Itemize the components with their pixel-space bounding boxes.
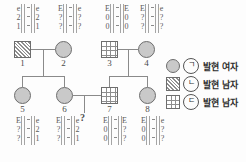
- genotype-row: Ee: [133, 116, 173, 125]
- genotype-row: Ee: [48, 116, 88, 125]
- legend-key-letter: ㄴ: [183, 76, 199, 92]
- genotype-row: ??: [50, 22, 90, 31]
- allele: ?: [13, 125, 24, 134]
- individual-4-symbol[interactable]: [138, 41, 155, 58]
- individual-5-symbol[interactable]: [14, 87, 31, 104]
- allele: 2: [13, 13, 24, 22]
- legend-label: 발현 남자: [203, 78, 238, 91]
- square-grid-hatch-icon: [166, 95, 180, 109]
- genotype-row: 0?: [95, 134, 135, 143]
- allele: e: [32, 4, 43, 13]
- allele: 0: [100, 134, 111, 143]
- genotype-row: Ee: [50, 4, 90, 13]
- individual-4-label: 4: [138, 58, 155, 68]
- individual-1-symbol[interactable]: [14, 41, 31, 58]
- allele: 0: [100, 125, 111, 134]
- individual-2-symbol[interactable]: [55, 41, 72, 58]
- sibship-line-7-8: [109, 76, 147, 77]
- allele: e: [156, 4, 167, 13]
- individual-6-symbol[interactable]: [56, 87, 73, 104]
- legend-label: 발현 여자: [203, 60, 238, 73]
- allele: E: [13, 116, 24, 125]
- allele: E: [100, 116, 111, 125]
- legend-key-letter: ㄷ: [183, 94, 199, 110]
- genotype-row: 0?: [133, 125, 173, 134]
- genotype-row: 0?: [133, 134, 173, 143]
- genotype-block-3: EE 00 00: [97, 4, 137, 31]
- sib-drop-6: [64, 76, 65, 87]
- allele: ?: [74, 22, 85, 31]
- individual-8-symbol[interactable]: [139, 87, 156, 104]
- allele: e: [72, 116, 83, 125]
- genotype-block-1: ee 22 11: [8, 4, 48, 31]
- genotype-row: 0?: [95, 125, 135, 134]
- genotype-row: ??: [132, 22, 172, 31]
- allele: 0: [121, 22, 132, 31]
- allele: ?: [156, 22, 167, 31]
- sib-drop-7: [109, 76, 110, 87]
- allele: E: [55, 4, 66, 13]
- individual-3-label: 3: [101, 58, 118, 68]
- allele: 1: [32, 22, 43, 31]
- legend-item-affected-male-grid: ㄷ 발현 남자: [166, 94, 244, 110]
- individual-3-symbol[interactable]: [101, 41, 118, 58]
- genotype-row: 22: [8, 13, 48, 22]
- individual-2-label: 2: [55, 58, 72, 68]
- allele: 1: [13, 22, 24, 31]
- allele: ?: [137, 22, 148, 31]
- mating-line-6-7: [73, 95, 101, 96]
- genotype-row: ?1: [8, 134, 48, 143]
- allele: 0: [102, 13, 113, 22]
- sib-drop-8: [147, 76, 148, 87]
- allele: E: [138, 116, 149, 125]
- legend-item-affected-female: ㄱ 발현 여자: [166, 58, 244, 74]
- legend-label: 발현 남자: [203, 96, 238, 109]
- genotype-row: 11: [8, 22, 48, 31]
- legend-item-affected-male-diagonal: ㄴ 발현 남자: [166, 76, 244, 92]
- allele: ?: [55, 22, 66, 31]
- descent-line-1-2: [43, 49, 44, 76]
- square-diagonal-hatch-icon: [166, 77, 180, 91]
- allele: E: [119, 116, 130, 125]
- allele: ?: [53, 125, 64, 134]
- genotype-row: ??: [132, 13, 172, 22]
- allele: ?: [119, 125, 130, 134]
- genotype-row: 00: [97, 13, 137, 22]
- genotype-row: Ee: [8, 116, 48, 125]
- legend: ㄱ 발현 여자 ㄴ 발현 남자 ㄷ 발현 남자: [166, 58, 244, 112]
- genotype-row: 00: [97, 22, 137, 31]
- legend-key-letter: ㄱ: [183, 58, 199, 74]
- allele: 1: [32, 134, 43, 143]
- allele: E: [53, 116, 64, 125]
- individual-7-symbol[interactable]: [101, 87, 118, 104]
- genotype-row: EE: [97, 4, 137, 13]
- genotype-block-7: EE 0? 0?: [95, 116, 135, 143]
- allele: 0: [138, 125, 149, 134]
- allele: 2: [32, 125, 43, 134]
- allele: ?: [74, 13, 85, 22]
- genotype-row: Ee: [132, 4, 172, 13]
- allele: E: [102, 4, 113, 13]
- allele: ?: [156, 13, 167, 22]
- genotype-row: ee: [8, 4, 48, 13]
- sib-drop-5: [22, 76, 23, 87]
- allele: 0: [121, 13, 132, 22]
- sibship-line-5-6: [22, 76, 64, 77]
- allele: 1: [72, 134, 83, 143]
- allele: ?: [157, 125, 168, 134]
- individual-8-label: 8: [139, 104, 156, 114]
- pedigree-diagram: ee 22 11 Ee ?? ?? EE 00 00 Ee ?? ?? 1 2 …: [0, 0, 246, 162]
- allele: e: [32, 116, 43, 125]
- allele: 0: [138, 134, 149, 143]
- allele: e: [157, 116, 168, 125]
- genotype-row: ?1: [48, 134, 88, 143]
- genotype-row: ??: [50, 13, 90, 22]
- allele: ?: [55, 13, 66, 22]
- circle-filled-icon: [166, 59, 180, 73]
- allele: 2: [72, 125, 83, 134]
- allele: e: [13, 4, 24, 13]
- individual-5-label: 5: [14, 104, 31, 114]
- allele: ?: [137, 13, 148, 22]
- allele: ?: [119, 134, 130, 143]
- genotype-block-4: Ee ?? ??: [132, 4, 172, 31]
